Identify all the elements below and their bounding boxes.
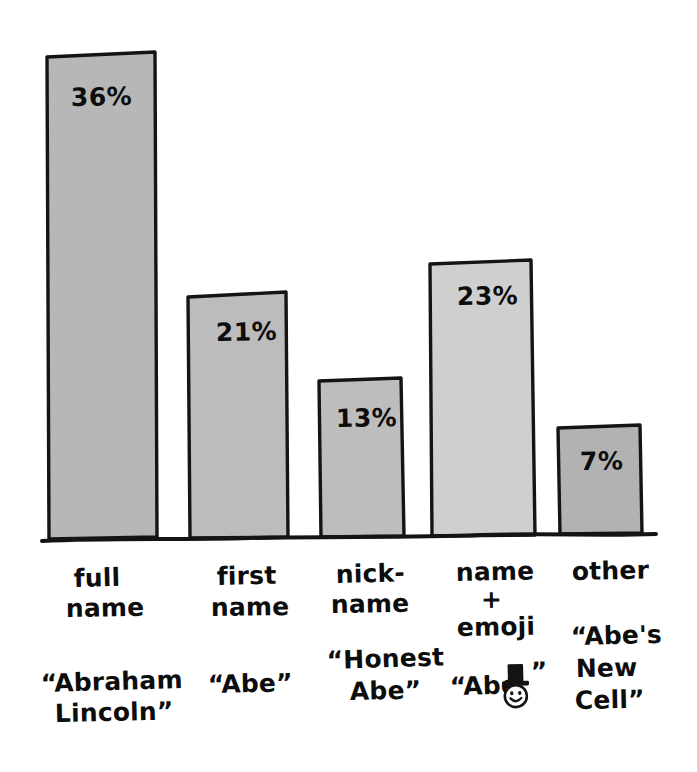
bar-value-other: 7% (580, 446, 624, 476)
category-label-nickname-line-2: name (331, 589, 410, 619)
example-label-other-line-3: Cell” (575, 685, 645, 715)
bar-group-first-name[interactable]: 21% (188, 292, 288, 538)
bar-rect-full-name[interactable] (47, 52, 157, 539)
example-label-name-emoji-close-quote: ” (530, 657, 547, 686)
example-label-full-name-line-2: Lincoln” (55, 697, 174, 728)
category-label-other-line-1: other (572, 556, 650, 586)
category-label-name-emoji: name + emoji (456, 556, 536, 642)
category-label-first-name-line-1: first (217, 561, 277, 591)
example-label-nickname-line-1: “Honest (326, 642, 444, 675)
bar-group-full-name[interactable]: 36% (47, 52, 157, 539)
chart-canvas: 36% 21% 13% 23% 7% (0, 0, 697, 772)
example-label-nickname: “Honest Abe” (326, 642, 444, 706)
category-labels-group: full name first name nick- name name + e… (66, 556, 650, 642)
category-label-full-name: full name (66, 563, 145, 623)
category-label-nickname-line-1: nick- (335, 558, 405, 589)
category-label-first-name-line-2: name (211, 592, 290, 622)
bar-group-name-emoji[interactable]: 23% (430, 260, 535, 536)
bar-group-nickname[interactable]: 13% (319, 378, 404, 537)
example-label-full-name: “Abraham Lincoln” (40, 665, 183, 728)
example-label-other-line-1: “Abe's (570, 620, 662, 651)
category-label-name-emoji-line-3: emoji (457, 612, 536, 642)
example-labels-group: “Abraham Lincoln” “Abe” “Honest Abe” “Ab… (40, 620, 662, 728)
example-label-first-name: “Abe” (208, 668, 293, 699)
category-label-first-name: first name (211, 561, 290, 622)
example-label-first-name-line-1: “Abe” (208, 668, 293, 699)
example-label-other: “Abe's New Cell” (570, 620, 662, 715)
bar-value-full-name: 36% (71, 82, 133, 112)
example-label-other-line-2: New (576, 653, 638, 683)
bar-rect-nickname[interactable] (319, 378, 404, 537)
example-label-nickname-line-2: Abe” (350, 676, 422, 706)
category-label-full-name-line-1: full (73, 563, 120, 593)
bar-value-name-emoji: 23% (457, 281, 519, 311)
category-label-full-name-line-2: name (66, 593, 145, 623)
bar-value-first-name: 21% (216, 317, 278, 347)
example-label-full-name-line-1: “Abraham (40, 665, 183, 698)
bar-group-other[interactable]: 7% (558, 425, 642, 534)
example-label-name-emoji: “Abe ” (449, 657, 547, 708)
category-label-name-emoji-line-2: + (481, 585, 502, 614)
bars-group: 36% 21% 13% 23% 7% (47, 52, 642, 539)
bar-rect-other[interactable] (558, 425, 642, 534)
hand-drawn-bar-chart: 36% 21% 13% 23% 7% (0, 0, 697, 772)
category-label-other: other (572, 556, 650, 586)
category-label-nickname: nick- name (331, 558, 410, 619)
bar-value-nickname: 13% (336, 403, 398, 433)
category-label-name-emoji-line-1: name (456, 556, 535, 587)
